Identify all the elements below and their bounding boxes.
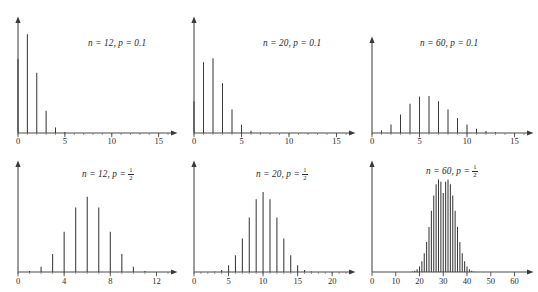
label-p-symbol: p [112, 169, 117, 179]
label-n-symbol: n [426, 166, 431, 176]
fraction-one-half: 12 [302, 167, 307, 181]
svg-text:8: 8 [108, 276, 112, 286]
label-p-value: 0.1 [134, 38, 146, 48]
svg-text:0: 0 [192, 136, 196, 146]
svg-text:0: 0 [192, 276, 196, 286]
label-n-symbol: n [88, 38, 93, 48]
svg-text:10: 10 [108, 136, 117, 146]
svg-text:15: 15 [332, 136, 341, 146]
label-n-symbol: n [256, 169, 261, 179]
svg-text:10: 10 [392, 276, 401, 286]
plot-area-n12-p01: 051015 [0, 0, 179, 150]
svg-text:15: 15 [510, 136, 519, 146]
svg-text:5: 5 [226, 276, 230, 286]
svg-text:10: 10 [285, 136, 294, 146]
label-p-symbol: p [286, 169, 291, 179]
svg-text:5: 5 [63, 136, 67, 146]
svg-text:5: 5 [417, 136, 421, 146]
label-p-value: 0.1 [466, 38, 478, 48]
svg-text:12: 12 [152, 276, 161, 286]
svg-text:60: 60 [510, 276, 519, 286]
label-p-symbol: p [293, 38, 298, 48]
chart-panel-n20-p01: 051015 n = 20, p = 0.1 [179, 0, 358, 150]
label-p-value: 0.1 [309, 38, 321, 48]
panel-label-n20-p01: n = 20, p = 0.1 [263, 38, 321, 48]
svg-text:10: 10 [259, 276, 268, 286]
fraction-one-half: 12 [128, 167, 133, 181]
panel-label-n60-p01: n = 60, p = 0.1 [420, 38, 478, 48]
svg-text:4: 4 [62, 276, 67, 286]
panel-label-n12-p01: n = 12, p = 0.1 [88, 38, 146, 48]
svg-text:20: 20 [415, 276, 424, 286]
chart-panel-n12-phalf: 04812 n = 12, p = 12 [0, 150, 179, 292]
chart-panel-n60-p01: 051015 n = 60, p = 0.1 [358, 0, 538, 150]
svg-text:10: 10 [463, 136, 472, 146]
fraction-one-half: 12 [472, 164, 477, 178]
binomial-distribution-figure: 051015 n = 12, p = 0.1 051015 n = 20, p … [0, 0, 538, 292]
chart-panel-n20-phalf: 05101520 n = 20, p = 12 [179, 150, 358, 292]
svg-text:40: 40 [463, 276, 472, 286]
svg-text:15: 15 [154, 136, 163, 146]
label-p-symbol: p [118, 38, 123, 48]
label-n-symbol: n [82, 169, 87, 179]
panel-label-n12-phalf: n = 12, p = 12 [82, 167, 134, 181]
svg-text:0: 0 [370, 136, 374, 146]
svg-text:15: 15 [293, 276, 302, 286]
svg-text:0: 0 [16, 136, 20, 146]
svg-text:5: 5 [239, 136, 243, 146]
label-n-symbol: n [263, 38, 268, 48]
svg-text:50: 50 [487, 276, 496, 286]
label-p-symbol: p [456, 166, 461, 176]
plot-area-n60-p01: 051015 [358, 0, 538, 150]
chart-panel-n12-p01: 051015 n = 12, p = 0.1 [0, 0, 179, 150]
svg-text:20: 20 [328, 276, 337, 286]
svg-text:0: 0 [370, 276, 374, 286]
label-n-symbol: n [420, 38, 425, 48]
svg-text:30: 30 [439, 276, 448, 286]
plot-area-n20-p01: 051015 [179, 0, 358, 150]
svg-text:0: 0 [16, 276, 20, 286]
label-p-symbol: p [450, 38, 455, 48]
panel-label-n20-phalf: n = 20, p = 12 [256, 167, 308, 181]
chart-panel-n60-phalf: 0102030405060 n = 60, p = 12 [358, 150, 538, 292]
panel-label-n60-phalf: n = 60, p = 12 [426, 164, 478, 178]
